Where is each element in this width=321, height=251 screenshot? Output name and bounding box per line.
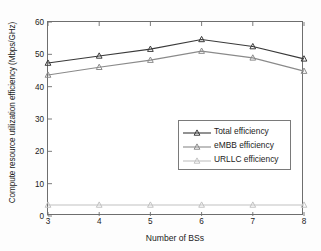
chart-legend: Total efficiency eMBB efficiency URLLC e… [178,120,291,170]
legend-marker-icon [182,139,212,151]
legend-label: Total efficiency [214,126,269,136]
y-tick-label: 60 [35,18,44,27]
y-tick-label: 40 [35,82,44,91]
legend-label: eMBB efficiency [214,140,274,150]
x-tick-label: 7 [251,217,256,226]
x-tick-label: 4 [97,217,102,226]
series-line [48,39,304,63]
y-tick-label: 50 [35,50,44,59]
x-tick-label: 3 [46,217,51,226]
x-tick-label: 8 [302,217,307,226]
legend-item[interactable]: eMBB efficiency [182,138,286,152]
y-tick-label: 30 [35,115,44,124]
legend-item[interactable]: Total efficiency [182,124,286,138]
x-axis-label: Number of BSs [47,233,303,243]
y-tick-label: 0 [39,212,44,221]
legend-marker-icon [182,125,212,137]
legend-label: URLLC efficiency [214,154,279,164]
y-tick-label: 20 [35,147,44,156]
series-line [48,51,304,75]
x-tick-label: 5 [148,217,153,226]
chart-figure: Compute resource utilization efficiency … [0,0,321,251]
x-tick-label: 6 [199,217,204,226]
plot-area: 0102030405060345678 [47,21,303,215]
plot-svg [48,22,304,216]
legend-marker-icon [182,153,212,165]
y-axis-label: Compute resource utilization efficiency … [8,15,17,211]
y-tick-label: 10 [35,179,44,188]
legend-item[interactable]: URLLC efficiency [182,152,286,166]
